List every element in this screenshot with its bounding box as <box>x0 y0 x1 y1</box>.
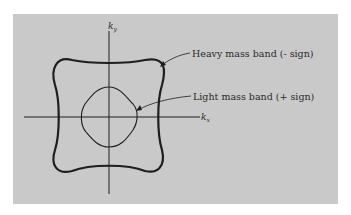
light-band-arrowhead-icon <box>136 105 142 111</box>
light-mass-band-label: Light mass band (+ sign) <box>193 91 314 102</box>
band-diagram: ky kx Heavy mass band (- sign) Light mas… <box>0 0 351 215</box>
heavy-mass-band-label: Heavy mass band (- sign) <box>192 48 314 59</box>
kx-axis-label: kx <box>201 112 210 123</box>
light-band-leader-line <box>138 96 191 110</box>
heavy-band-leader-line <box>161 53 190 66</box>
